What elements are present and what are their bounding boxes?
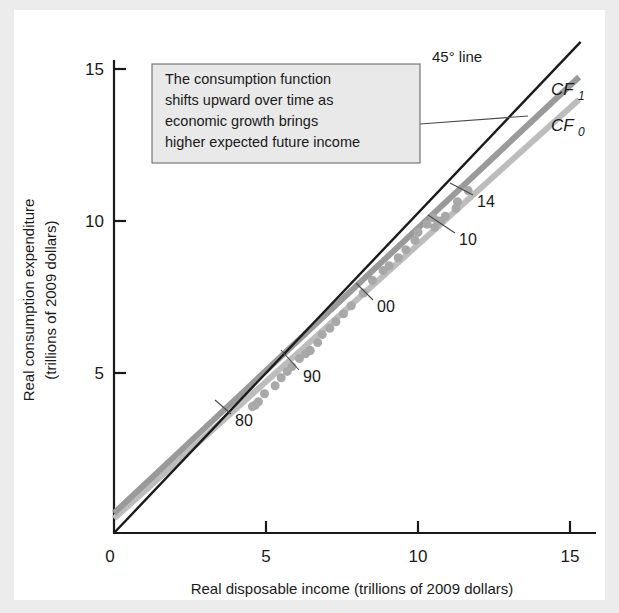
data-point — [331, 317, 340, 326]
x-tick-label-15: 15 — [561, 547, 580, 566]
data-point — [401, 245, 410, 254]
y-tick-label-15: 15 — [85, 60, 104, 79]
year-labels: 80 90 00 10 14 — [235, 193, 495, 429]
cf1-label-base: CF — [551, 80, 575, 99]
x-axis-title: Real disposable income (trillions of 200… — [191, 580, 514, 597]
data-point — [414, 228, 423, 237]
data-point — [385, 261, 394, 270]
point-label-80: 80 — [235, 412, 253, 429]
data-point — [260, 389, 269, 398]
y-axis-title-line2: (trillions of 2009 dollars) — [42, 220, 59, 379]
y-tick-label-10: 10 — [85, 212, 104, 231]
data-point — [254, 397, 263, 406]
callout-line-1: The consumption function — [165, 71, 331, 87]
data-point — [441, 212, 450, 221]
x-tick-label-5: 5 — [261, 547, 270, 566]
data-point — [410, 236, 419, 245]
y-axis-title-line1: Real consumption expenditure — [20, 199, 37, 402]
point-label-14: 14 — [477, 193, 495, 210]
cf0-label-base: CF — [551, 116, 575, 135]
point-label-10: 10 — [459, 231, 477, 248]
callout-leader-line — [420, 116, 528, 124]
x-tick-label-10: 10 — [409, 547, 428, 566]
point-label-90: 90 — [303, 368, 321, 385]
callout-line-2: shifts upward over time as — [165, 92, 333, 108]
callout-line-4: higher expected future income — [165, 134, 360, 150]
data-point — [339, 309, 348, 318]
callout-annotation: The consumption function shifts upward o… — [152, 64, 420, 163]
cf1-label-subscript: 1 — [578, 89, 585, 103]
cf0-label-subscript: 0 — [578, 125, 585, 139]
y-tick-label-5: 5 — [95, 364, 104, 383]
data-point — [347, 301, 356, 310]
data-point — [287, 362, 296, 371]
point-label-00: 00 — [377, 298, 395, 315]
callout-line-3: economic growth brings — [165, 113, 318, 129]
data-point — [453, 197, 462, 206]
cf0-label: CF 0 — [551, 116, 585, 139]
data-point — [271, 381, 280, 390]
consumption-function-chart: 15 10 5 0 5 10 15 Real disposable income… — [0, 0, 619, 613]
x-tick-label-0: 0 — [105, 547, 114, 566]
figure-root: 15 10 5 0 5 10 15 Real disposable income… — [0, 0, 619, 613]
data-point — [313, 338, 322, 347]
data-point — [318, 330, 327, 339]
data-point — [306, 346, 315, 355]
data-point — [368, 276, 377, 285]
data-point — [394, 253, 403, 262]
line45-label: 45° line — [432, 48, 482, 65]
